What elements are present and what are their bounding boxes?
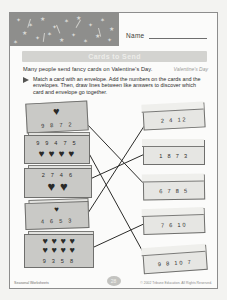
footer-copyright: © 2002 Tribune Education. All Rights Res…	[140, 281, 212, 285]
name-input-line[interactable]	[149, 31, 207, 39]
envelope-numbers: 6 7 8 5	[143, 187, 205, 194]
footer-series-label: Seasonal Worksheets	[14, 281, 49, 285]
envelope-item[interactable]: 7 6 10	[143, 208, 206, 235]
envelope-flap	[142, 139, 204, 147]
card-numbers: 2 7 4 6	[24, 172, 92, 178]
card-numbers: 9 3 5 8	[24, 258, 94, 264]
name-field-area: Name	[126, 31, 214, 39]
decorative-confetti-banner: ✦ ✶ ★ ✦ ✶ ★ ✦ ✶ ★ ★ ✦ ✶ ★ ✦ ✶ ★ ✦ ✶	[10, 13, 119, 46]
intro-text: Many people send fancy cards on Valentin…	[23, 66, 152, 72]
page-title: Cards to Send	[22, 51, 207, 62]
card-hearts: ♥ ♥ ♥ ♥	[24, 149, 90, 159]
card-item[interactable]: 9 9 4 7 5 ♥ ♥ ♥ ♥	[24, 135, 90, 164]
card-item[interactable]: ♥ ♥ ♥ ♥ ♥ ♥ ♥ ♥ 9 3 5 8	[24, 234, 94, 268]
worksheet-sheet: ✦ ✶ ★ ✦ ✶ ★ ✦ ✶ ★ ★ ✦ ✶ ★ ✦ ✶ ★ ✦ ✶ Name	[9, 12, 218, 289]
directions-block: Match a card with an envelope. Add the n…	[23, 76, 203, 95]
card-item[interactable]: ♥ 9 8 7 2	[25, 100, 88, 133]
title-banner: Cards to Send	[22, 51, 207, 62]
envelope-numbers: 1 8 7 3	[143, 153, 205, 159]
envelope-item[interactable]: 1 8 7 3	[143, 140, 205, 165]
card-numbers: 9 9 4 7 5	[24, 140, 90, 146]
name-label: Name	[126, 32, 145, 39]
card-hearts: ♥ ♥ ♥ ♥	[24, 246, 94, 255]
card-hearts: ♥ ♥	[24, 180, 92, 193]
worksheet-page: ✦ ✶ ★ ✦ ✶ ★ ✦ ✶ ★ ★ ✦ ✶ ★ ✦ ✶ ★ ✦ ✶ Name	[0, 0, 227, 300]
card-item[interactable]: 2 7 4 6 ♥ ♥	[24, 168, 92, 198]
theme-tag: Valentine's Day	[174, 66, 208, 72]
directions-text: Match a card with an envelope. Add the n…	[33, 76, 203, 95]
card-item[interactable]: ♥ 4 6 5 3	[25, 201, 90, 230]
envelope-item[interactable]: 6 7 8 5	[143, 174, 205, 200]
page-number-badge: 28	[107, 276, 121, 286]
envelope-flap	[142, 173, 204, 182]
matching-puzzle-area: ♥ 9 8 7 2 9 9 4 7 5 ♥ ♥ ♥ ♥ 2 7 4 6 ♥ ♥	[10, 95, 217, 275]
envelope-item[interactable]: 9 8 10 7	[142, 245, 208, 274]
arrow-bullet-icon	[23, 77, 29, 83]
envelope-item[interactable]: 2 4 12	[142, 102, 205, 130]
